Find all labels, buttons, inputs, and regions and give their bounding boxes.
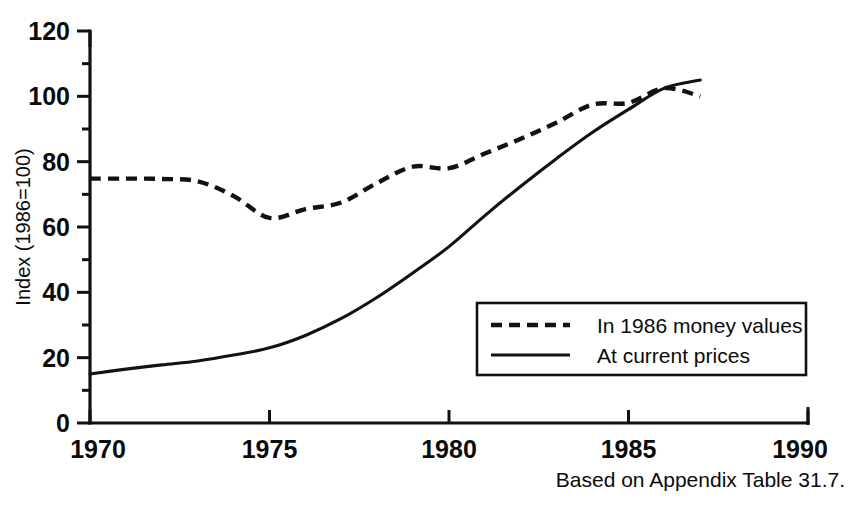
caption-text: Based on Appendix Table 31.7.: [556, 468, 845, 491]
y-tick-label: 0: [56, 409, 70, 437]
x-tick-label: 1990: [772, 435, 828, 463]
chart-legend[interactable]: In 1986 money valuesAt current prices: [477, 303, 806, 375]
y-axis-title-text: Index (1986=100): [12, 148, 34, 305]
y-tick-label: 20: [42, 344, 70, 372]
y-tick-label: 100: [28, 82, 70, 110]
y-axis-title: Index (1986=100): [12, 148, 34, 305]
series-line-1: [90, 88, 700, 218]
y-tick-label: 40: [42, 278, 70, 306]
chart-caption: Based on Appendix Table 31.7.: [556, 468, 845, 491]
x-tick-label: 1970: [70, 435, 126, 463]
chart-figure: 02040608010012019701975198019851990 Inde…: [0, 0, 862, 505]
y-tick-label: 60: [42, 213, 70, 241]
x-tick-label: 1975: [242, 435, 298, 463]
y-tick-label: 80: [42, 148, 70, 176]
y-tick-label: 120: [28, 17, 70, 45]
axis-tick-labels: 02040608010012019701975198019851990: [28, 17, 828, 463]
x-tick-label: 1980: [421, 435, 477, 463]
x-tick-label: 1985: [601, 435, 657, 463]
legend-label: At current prices: [597, 344, 750, 367]
legend-label: In 1986 money values: [597, 314, 802, 337]
line-chart: 02040608010012019701975198019851990 Inde…: [0, 0, 862, 505]
